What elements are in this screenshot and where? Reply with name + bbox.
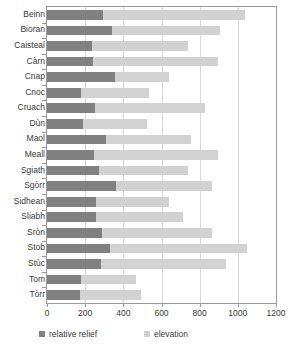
y-axis-label: Càrn: [0, 57, 45, 66]
bar-segment-elevation: [92, 41, 188, 51]
bar-segment-relative-relief: [47, 119, 83, 129]
bar-segment-relative-relief: [47, 212, 96, 222]
bar-segment-elevation: [115, 72, 169, 82]
y-axis-label: Stùc: [0, 259, 45, 268]
y-axis-label: Cnap: [0, 72, 45, 81]
x-axis-label: 600: [142, 308, 182, 318]
bar-segment-elevation: [96, 212, 184, 222]
bar-segment-elevation: [112, 26, 220, 36]
legend-item-relative-relief: relative relief: [39, 329, 97, 339]
bar-segment-relative-relief: [47, 10, 103, 20]
bar-segment-relative-relief: [47, 41, 92, 51]
x-axis-tick: [123, 304, 124, 307]
y-axis-tick: [42, 116, 46, 117]
bar-row: [47, 290, 276, 300]
legend-swatch-elevation: [144, 331, 150, 337]
bar-segment-relative-relief: [47, 135, 106, 145]
bar-row: [47, 72, 276, 82]
bar-segment-relative-relief: [47, 181, 116, 191]
y-axis-label: Meall: [0, 150, 45, 159]
bar-segment-relative-relief: [47, 290, 80, 300]
bar-segment-relative-relief: [47, 88, 81, 98]
bar-row: [47, 150, 276, 160]
bar-row: [47, 26, 276, 36]
y-axis-label: Sgòrr: [0, 181, 45, 190]
bar-segment-elevation: [96, 197, 169, 207]
x-axis-label: 0: [27, 308, 67, 318]
y-axis-tick: [42, 225, 46, 226]
y-axis-tick: [42, 194, 46, 195]
bar-row: [47, 57, 276, 67]
x-axis-label: 1000: [218, 308, 258, 318]
bar-segment-relative-relief: [47, 26, 112, 36]
bar-segment-elevation: [81, 88, 149, 98]
bar-row: [47, 228, 276, 238]
y-axis-tick: [42, 85, 46, 86]
bar-segment-elevation: [106, 135, 191, 145]
bar-row: [47, 259, 276, 269]
x-axis-tick: [238, 304, 239, 307]
bar-row: [47, 244, 276, 254]
y-axis-label: Sidhean: [0, 197, 45, 206]
y-axis-label: Tom: [0, 275, 45, 284]
y-axis-tick: [42, 54, 46, 55]
bar-segment-elevation: [83, 119, 147, 129]
bar-row: [47, 197, 276, 207]
legend-swatch-relative-relief: [39, 331, 45, 337]
bar-row: [47, 119, 276, 129]
bar-segment-elevation: [80, 290, 140, 300]
bar-row: [47, 212, 276, 222]
bar-row: [47, 103, 276, 113]
bar-segment-relative-relief: [47, 228, 102, 238]
bar-chart: BeinnBioranCaistealCàrnCnapCnocCruachDùn…: [0, 0, 297, 345]
y-axis-label: Tòrr: [0, 290, 45, 299]
bar-segment-relative-relief: [47, 103, 95, 113]
plot-wrapper: BeinnBioranCaistealCàrnCnapCnocCruachDùn…: [0, 0, 297, 310]
y-axis-label: Beinn: [0, 10, 45, 19]
bar-segment-relative-relief: [47, 72, 115, 82]
bar-row: [47, 10, 276, 20]
bar-row: [47, 135, 276, 145]
bar-row: [47, 181, 276, 191]
bar-row: [47, 88, 276, 98]
bar-segment-elevation: [94, 150, 218, 160]
y-axis-label: Maol: [0, 134, 45, 143]
bar-segment-elevation: [101, 259, 226, 269]
x-axis-tick: [162, 304, 163, 307]
y-axis-label: Stob: [0, 243, 45, 252]
bar-segment-relative-relief: [47, 197, 96, 207]
bar-segment-relative-relief: [47, 244, 110, 254]
bar-rows: [47, 7, 276, 303]
y-axis-label: Bioran: [0, 25, 45, 34]
x-axis-label: 1200: [256, 308, 296, 318]
bar-segment-relative-relief: [47, 166, 99, 176]
bar-segment-relative-relief: [47, 57, 93, 67]
y-axis-tick: [42, 163, 46, 164]
plot-area: [46, 6, 277, 304]
bar-segment-elevation: [116, 181, 212, 191]
y-axis-label: Sliabh: [0, 212, 45, 221]
y-axis-label: Sròn: [0, 228, 45, 237]
bar-segment-elevation: [93, 57, 218, 67]
bar-segment-elevation: [103, 10, 245, 20]
x-axis-tick: [276, 304, 277, 307]
x-axis-tick: [47, 304, 48, 307]
y-axis-label: Caisteal: [0, 41, 45, 50]
bar-segment-relative-relief: [47, 259, 101, 269]
x-axis-tick: [200, 304, 201, 307]
legend-item-elevation: elevation: [144, 329, 188, 339]
y-axis-label: Dùn: [0, 119, 45, 128]
bar-row: [47, 41, 276, 51]
x-axis-tick: [85, 304, 86, 307]
bar-segment-elevation: [81, 275, 135, 285]
bar-segment-relative-relief: [47, 150, 94, 160]
bar-segment-relative-relief: [47, 275, 81, 285]
y-axis-tick: [42, 38, 46, 39]
y-axis-label: Cnoc: [0, 88, 45, 97]
bar-segment-elevation: [99, 166, 188, 176]
legend-label-elevation: elevation: [154, 329, 188, 339]
bar-row: [47, 275, 276, 285]
bar-row: [47, 166, 276, 176]
y-axis-tick: [42, 272, 46, 273]
bar-segment-elevation: [95, 103, 206, 113]
